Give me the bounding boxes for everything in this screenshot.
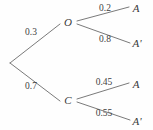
tree-edges-svg bbox=[0, 0, 153, 130]
node-label-c-outcome-a-prime: A' bbox=[132, 116, 141, 127]
edge-label-c-to-a: 0.45 bbox=[96, 78, 113, 88]
edge-label-o-to-a-prime: 0.8 bbox=[99, 35, 111, 45]
node-label-c-outcome-a: A bbox=[133, 79, 140, 90]
probability-tree-diagram: O C A A' A A' 0.3 0.7 0.2 0.8 0.45 0.55 bbox=[0, 0, 153, 130]
node-label-o: O bbox=[64, 17, 72, 28]
edge-label-o-to-a: 0.2 bbox=[99, 4, 111, 14]
node-label-c: C bbox=[64, 95, 71, 106]
edge-label-root-to-c: 0.7 bbox=[25, 82, 37, 92]
edge-label-root-to-o: 0.3 bbox=[25, 28, 37, 38]
node-label-o-outcome-a-prime: A' bbox=[132, 38, 141, 49]
node-label-o-outcome-a: A bbox=[133, 3, 140, 14]
edge-label-c-to-a-prime: 0.55 bbox=[96, 109, 113, 119]
